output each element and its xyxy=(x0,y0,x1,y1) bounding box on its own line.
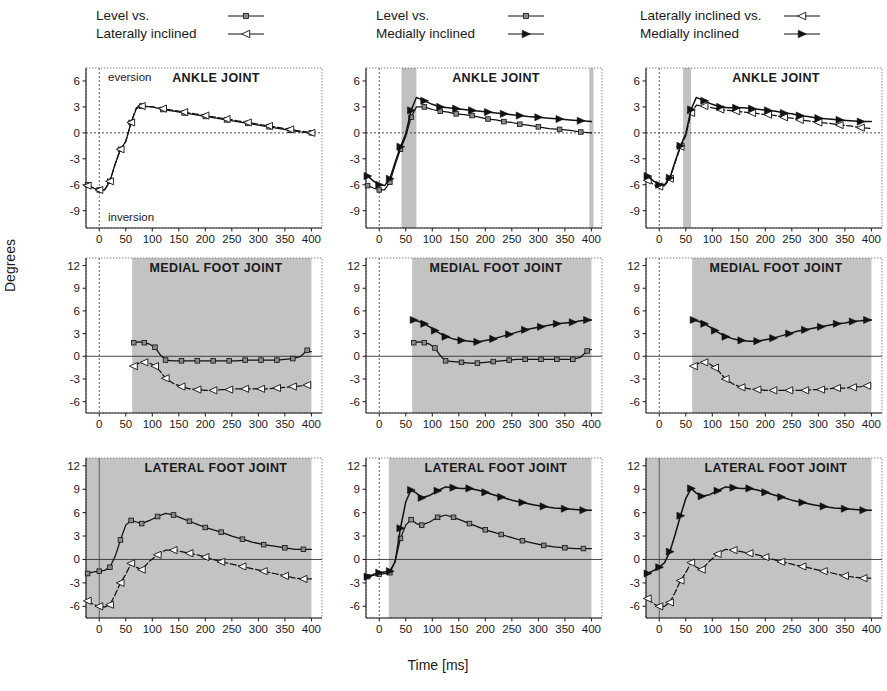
svg-text:0: 0 xyxy=(354,553,360,565)
legend-label: Laterally inclined xyxy=(96,26,224,41)
svg-text:50: 50 xyxy=(119,418,132,430)
svg-text:300: 300 xyxy=(529,233,548,245)
svg-text:200: 200 xyxy=(476,418,495,430)
svg-text:6: 6 xyxy=(634,305,640,317)
svg-text:9: 9 xyxy=(634,483,640,495)
chart-panel-medial-2: 129630-3-6050100150200250300350400MEDIAL… xyxy=(340,252,612,437)
svg-text:-3: -3 xyxy=(630,153,640,165)
svg-text:100: 100 xyxy=(423,418,442,430)
svg-text:12: 12 xyxy=(627,460,640,472)
svg-text:0: 0 xyxy=(96,418,102,430)
svg-text:150: 150 xyxy=(449,418,468,430)
legend-row: Medially inclined xyxy=(376,26,548,41)
svg-text:250: 250 xyxy=(782,418,801,430)
square-grey-icon xyxy=(504,9,548,23)
chart-panel-lateral-2: 129630-3-6050100150200250300350400LATERA… xyxy=(340,452,612,642)
svg-text:350: 350 xyxy=(275,623,294,635)
svg-text:400: 400 xyxy=(302,418,321,430)
legend-level-vs-medially-inclined: Level vs.Medially inclined xyxy=(376,8,548,41)
svg-text:150: 150 xyxy=(169,233,188,245)
square-grey-icon xyxy=(224,9,268,23)
svg-text:3: 3 xyxy=(354,530,360,542)
svg-text:0: 0 xyxy=(376,233,382,245)
svg-text:-3: -3 xyxy=(70,373,80,385)
legend-level-vs-laterally-inclined: Level vs.Laterally inclined xyxy=(96,8,268,41)
svg-text:0: 0 xyxy=(354,350,360,362)
svg-text:-6: -6 xyxy=(630,396,640,408)
svg-text:350: 350 xyxy=(555,418,574,430)
svg-text:350: 350 xyxy=(275,418,294,430)
triangle-left-open-icon xyxy=(780,9,824,23)
svg-text:200: 200 xyxy=(196,623,215,635)
svg-text:0: 0 xyxy=(634,127,640,139)
svg-text:MEDIAL FOOT JOINT: MEDIAL FOOT JOINT xyxy=(150,261,283,275)
svg-text:300: 300 xyxy=(249,233,268,245)
svg-text:350: 350 xyxy=(275,233,294,245)
svg-text:300: 300 xyxy=(249,623,268,635)
chart-panel-ankle-2: 630-3-6-9050100150200250300350400ANKLE J… xyxy=(340,62,612,252)
svg-text:250: 250 xyxy=(222,623,241,635)
svg-text:-3: -3 xyxy=(70,153,80,165)
svg-text:50: 50 xyxy=(399,623,412,635)
svg-text:ANKLE JOINT: ANKLE JOINT xyxy=(172,71,260,85)
svg-text:50: 50 xyxy=(399,418,412,430)
svg-text:-6: -6 xyxy=(630,600,640,612)
svg-text:-6: -6 xyxy=(350,179,360,191)
svg-text:300: 300 xyxy=(529,418,548,430)
svg-text:100: 100 xyxy=(143,233,162,245)
svg-text:6: 6 xyxy=(634,507,640,519)
svg-text:350: 350 xyxy=(555,233,574,245)
legend-row: Medially inclined xyxy=(640,26,824,41)
svg-text:inversion: inversion xyxy=(108,211,154,223)
svg-text:100: 100 xyxy=(143,418,162,430)
svg-text:0: 0 xyxy=(634,350,640,362)
svg-text:250: 250 xyxy=(782,233,801,245)
svg-text:0: 0 xyxy=(634,553,640,565)
svg-text:-3: -3 xyxy=(630,577,640,589)
svg-text:-9: -9 xyxy=(70,205,80,217)
svg-text:250: 250 xyxy=(502,233,521,245)
svg-text:100: 100 xyxy=(703,233,722,245)
svg-text:50: 50 xyxy=(399,233,412,245)
svg-text:6: 6 xyxy=(354,305,360,317)
svg-text:0: 0 xyxy=(354,127,360,139)
svg-text:250: 250 xyxy=(502,623,521,635)
svg-text:100: 100 xyxy=(423,623,442,635)
svg-text:3: 3 xyxy=(74,530,80,542)
svg-text:9: 9 xyxy=(74,282,80,294)
svg-text:-6: -6 xyxy=(350,600,360,612)
svg-text:-6: -6 xyxy=(350,396,360,408)
svg-text:250: 250 xyxy=(502,418,521,430)
svg-text:-3: -3 xyxy=(630,373,640,385)
legend-row: Laterally inclined vs. xyxy=(640,8,824,23)
svg-text:9: 9 xyxy=(634,282,640,294)
svg-text:6: 6 xyxy=(74,305,80,317)
svg-text:400: 400 xyxy=(862,418,881,430)
svg-text:350: 350 xyxy=(835,418,854,430)
svg-text:-3: -3 xyxy=(350,153,360,165)
svg-text:eversion: eversion xyxy=(108,71,151,83)
svg-text:100: 100 xyxy=(143,623,162,635)
svg-text:12: 12 xyxy=(67,460,80,472)
svg-text:300: 300 xyxy=(529,623,548,635)
svg-text:9: 9 xyxy=(74,483,80,495)
svg-text:50: 50 xyxy=(119,233,132,245)
svg-text:MEDIAL FOOT JOINT: MEDIAL FOOT JOINT xyxy=(710,261,843,275)
svg-text:300: 300 xyxy=(809,233,828,245)
legend-label: Level vs. xyxy=(376,8,504,23)
svg-text:3: 3 xyxy=(74,101,80,113)
triangle-left-open-icon xyxy=(224,27,268,41)
svg-text:400: 400 xyxy=(582,233,601,245)
chart-panel-lateral-3: 129630-3-6050100150200250300350400LATERA… xyxy=(620,452,887,642)
svg-text:400: 400 xyxy=(582,623,601,635)
svg-text:100: 100 xyxy=(703,623,722,635)
svg-text:400: 400 xyxy=(302,233,321,245)
legend-row: Laterally inclined xyxy=(96,26,268,41)
legend-label: Medially inclined xyxy=(376,26,504,41)
svg-text:200: 200 xyxy=(756,418,775,430)
chart-panel-medial-1: 129630-3-6050100150200250300350400MEDIAL… xyxy=(60,252,332,437)
chart-panel-ankle-1: 630-3-6-9050100150200250300350400eversio… xyxy=(60,62,332,252)
svg-text:150: 150 xyxy=(169,418,188,430)
svg-text:0: 0 xyxy=(74,350,80,362)
svg-text:LATERAL FOOT JOINT: LATERAL FOOT JOINT xyxy=(145,461,288,475)
